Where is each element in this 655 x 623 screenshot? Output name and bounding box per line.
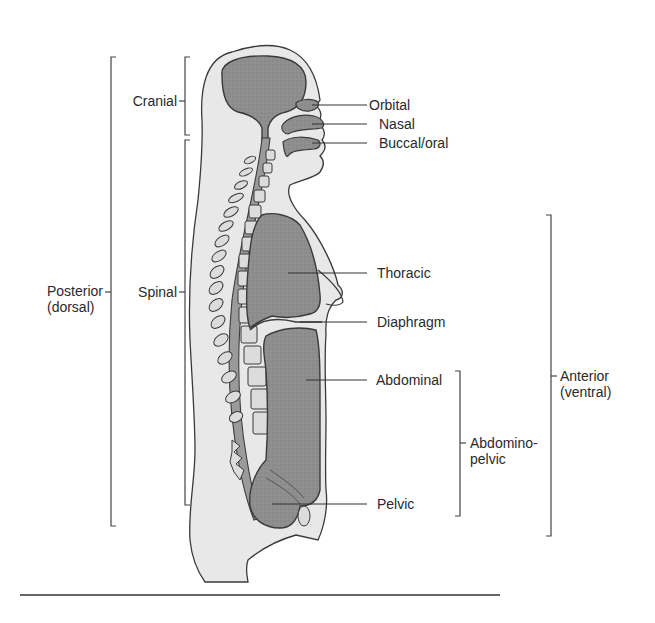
body-cavities-diagram: Cranial Spinal Posterior (dorsal) Orbita…: [0, 0, 655, 623]
label-posterior: Posterior (dorsal): [47, 283, 103, 315]
label-cranial: Cranial: [133, 93, 177, 109]
cranial-bracket: [185, 57, 190, 135]
label-anterior-line1: Anterior: [560, 368, 611, 384]
label-anterior-line2: (ventral): [560, 384, 611, 400]
label-abdominopelvic-line1: Abdomino-: [470, 435, 538, 451]
label-abdominopelvic-line2: pelvic: [470, 451, 538, 467]
label-spinal: Spinal: [138, 284, 177, 300]
abdominopelvic-bracket: [455, 371, 460, 516]
label-anterior: Anterior (ventral): [560, 368, 611, 400]
label-buccal: Buccal/oral: [379, 135, 448, 151]
label-orbital: Orbital: [369, 97, 410, 113]
label-posterior-line1: Posterior: [47, 283, 103, 299]
label-diaphragm: Diaphragm: [377, 314, 445, 330]
label-nasal: Nasal: [379, 116, 415, 132]
label-abdominopelvic: Abdomino- pelvic: [470, 435, 538, 467]
label-posterior-line2: (dorsal): [47, 299, 103, 315]
anterior-bracket: [546, 215, 551, 536]
posterior-bracket: [111, 57, 116, 526]
bottom-divider: [20, 594, 500, 596]
pubic-bone: [298, 506, 310, 526]
label-thoracic: Thoracic: [377, 265, 431, 281]
label-abdominal: Abdominal: [376, 372, 442, 388]
label-pelvic: Pelvic: [377, 496, 414, 512]
